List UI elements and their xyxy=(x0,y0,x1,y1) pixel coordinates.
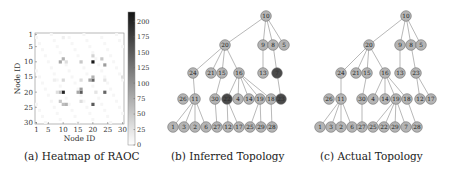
tree-node-23: 23 xyxy=(411,68,422,79)
heatmap-cell xyxy=(68,103,71,106)
heatmap-cell xyxy=(85,106,88,109)
heatmap-cell xyxy=(106,82,109,85)
node-label: 24 xyxy=(189,70,197,76)
node-label: 26 xyxy=(325,96,333,102)
heatmap-cell xyxy=(91,85,94,88)
x-axis-label: Node ID xyxy=(64,134,96,143)
tree-node-24: 24 xyxy=(336,68,347,79)
node-label: 10 xyxy=(402,13,410,19)
heatmap-cell xyxy=(103,63,106,66)
heatmap-cell xyxy=(53,79,56,82)
tree-node-11: 11 xyxy=(336,94,347,105)
heatmap-cell xyxy=(35,36,38,39)
heatmap-cell xyxy=(62,79,65,82)
heatmap-cell xyxy=(94,57,97,60)
heatmap-cell xyxy=(91,75,94,78)
node-label: 23 xyxy=(412,70,420,76)
colorbar-tick-label: 25 xyxy=(137,126,145,134)
tree-node-20: 20 xyxy=(364,40,375,51)
heatmap-cell xyxy=(91,79,94,82)
x-tick-label: 15 xyxy=(74,126,83,134)
tree-node-26: 26 xyxy=(324,94,335,105)
heatmap-cell xyxy=(62,36,65,39)
node-label: 13 xyxy=(259,70,267,76)
heatmap-cell xyxy=(109,88,112,91)
tree-node-21: 21 xyxy=(351,68,362,79)
heatmap-cell xyxy=(82,33,85,36)
tree-node-4: 4 xyxy=(233,94,244,105)
tree-node-22: 22 xyxy=(222,94,233,105)
tree-node-18: 18 xyxy=(266,94,277,105)
heatmap-cell xyxy=(65,63,68,66)
heatmap-cell xyxy=(97,63,100,66)
x-tick-label: 5 xyxy=(46,126,50,134)
node-label: 10 xyxy=(262,13,270,19)
node-label: 4 xyxy=(371,96,375,102)
node-label: 12 xyxy=(224,124,232,130)
colorbar-tick-label: 50 xyxy=(137,110,145,118)
tree-node-27: 27 xyxy=(357,122,368,133)
heatmap-cell xyxy=(65,60,68,63)
heatmap-cell xyxy=(74,82,77,85)
heatmap-cell xyxy=(106,115,109,118)
heatmap-cell xyxy=(100,36,103,39)
tree-node-13: 13 xyxy=(395,68,406,79)
heatmap-cell xyxy=(91,54,94,57)
tree-node-24: 24 xyxy=(188,68,199,79)
heatmap-cell xyxy=(103,75,106,78)
x-tick-label: 10 xyxy=(59,126,68,134)
node-label: 27 xyxy=(358,124,366,130)
node-label: 26 xyxy=(179,96,187,102)
tree-node-20: 20 xyxy=(220,40,231,51)
node-label: 16 xyxy=(381,70,389,76)
y-tick-label: 5 xyxy=(29,43,33,51)
heatmap-cell xyxy=(115,100,118,103)
heatmap-cell xyxy=(56,45,59,48)
tree-nodes: 1020985242115161323261130414191812171326… xyxy=(315,11,437,133)
node-label: 5 xyxy=(419,42,423,48)
tree-node-5: 5 xyxy=(416,40,427,51)
tree-nodes: 1020985242115161372611302241419182313262… xyxy=(168,11,290,133)
heatmap-cell xyxy=(80,94,83,97)
heatmap-cell xyxy=(121,79,124,82)
node-label: 28 xyxy=(413,124,421,130)
tree-node-28: 28 xyxy=(412,122,423,133)
tree-node-5: 5 xyxy=(279,40,290,51)
node-label: 29 xyxy=(391,124,399,130)
heatmap-cell xyxy=(71,42,74,45)
tree-node-6: 6 xyxy=(201,122,212,133)
heatmap-cell xyxy=(80,91,83,94)
tree-node-2: 2 xyxy=(336,122,347,133)
tree-node-15: 15 xyxy=(217,68,228,79)
colorbar-tick-label: 150 xyxy=(137,49,149,57)
heatmap-cell xyxy=(121,45,124,48)
node-label: 8 xyxy=(409,42,413,48)
tree-node-12: 12 xyxy=(223,122,234,133)
heatmap-cell xyxy=(68,36,71,39)
heatmap-cell xyxy=(80,79,83,82)
y-tick-label: 15 xyxy=(24,73,33,81)
tree-node-17: 17 xyxy=(426,94,437,105)
heatmap-cell xyxy=(68,69,71,72)
heatmap-cell xyxy=(62,57,65,60)
x-tick-label: 1 xyxy=(34,126,38,134)
heatmap-cell xyxy=(59,100,62,103)
node-label: 1 xyxy=(318,124,322,130)
tree-node-27: 27 xyxy=(212,122,223,133)
node-label: 21 xyxy=(207,70,214,76)
node-label: 6 xyxy=(204,124,208,130)
heatmap-cell xyxy=(41,48,44,51)
heatmap-cell xyxy=(77,88,80,91)
heatmap-cell xyxy=(100,69,103,72)
heatmap-cell xyxy=(74,48,77,51)
heatmap-cell xyxy=(41,82,44,85)
node-label: 5 xyxy=(282,42,286,48)
tree-node-3: 3 xyxy=(326,122,337,133)
heatmap-cell xyxy=(115,66,118,69)
inferred-topology-panel: 1020985242115161372611302241419182313262… xyxy=(150,0,300,179)
heatmap-cell xyxy=(71,109,74,112)
node-label: 13 xyxy=(396,70,404,76)
tree-node-4: 4 xyxy=(368,94,379,105)
actual-topology-tree: 1020985242115161323261130414191812171326… xyxy=(300,0,450,150)
tree-node-18: 18 xyxy=(402,94,413,105)
